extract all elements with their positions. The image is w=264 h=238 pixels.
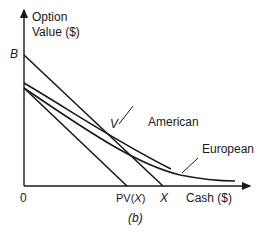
legend-european: European bbox=[202, 142, 254, 156]
panel-label: (b) bbox=[128, 211, 143, 225]
x-tick-zero: 0 bbox=[20, 191, 27, 205]
x-tick-x: X bbox=[159, 191, 169, 205]
line-b-to-x bbox=[24, 55, 163, 186]
x-axis-label: Cash ($) bbox=[186, 191, 232, 205]
european-leader bbox=[182, 158, 198, 173]
option-value-chart: Option Value ($) B V American European 0… bbox=[0, 0, 264, 238]
x-tick-pvx: PV(X) bbox=[116, 192, 145, 204]
y-tick-b: B bbox=[10, 47, 18, 61]
y-axis-label-2: Value ($) bbox=[32, 25, 80, 39]
point-label-v: V bbox=[110, 117, 119, 131]
american-leader bbox=[119, 106, 133, 124]
y-axis-label-1: Option bbox=[32, 10, 67, 24]
legend-american: American bbox=[148, 115, 199, 129]
